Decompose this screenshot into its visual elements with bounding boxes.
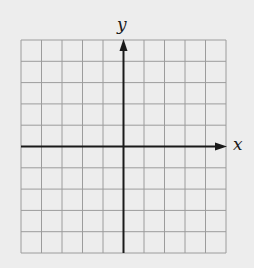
x-axis-label: x bbox=[233, 136, 243, 153]
grid-svg bbox=[0, 0, 254, 268]
y-axis-label: y bbox=[117, 16, 127, 33]
y-axis-arrowhead-icon bbox=[120, 39, 128, 51]
x-axis-arrowhead-icon bbox=[215, 143, 227, 151]
coordinate-plane: y x bbox=[0, 0, 254, 268]
axes bbox=[21, 39, 227, 253]
